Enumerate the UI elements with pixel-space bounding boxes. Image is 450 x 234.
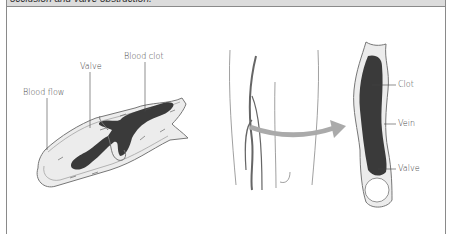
label-valve-left: Valve: [80, 62, 102, 71]
label-valve-right: Valve: [398, 164, 420, 173]
occluded-vein-illustration: [354, 42, 396, 207]
illustration: [0, 0, 450, 234]
vein-segment-illustration: [37, 62, 188, 187]
leg-illustration: [229, 50, 346, 190]
label-clot: Clot: [398, 80, 414, 89]
label-blood-flow: Blood flow: [23, 88, 64, 97]
label-vein: Vein: [398, 119, 415, 128]
label-blood-clot: Blood clot: [124, 52, 164, 61]
